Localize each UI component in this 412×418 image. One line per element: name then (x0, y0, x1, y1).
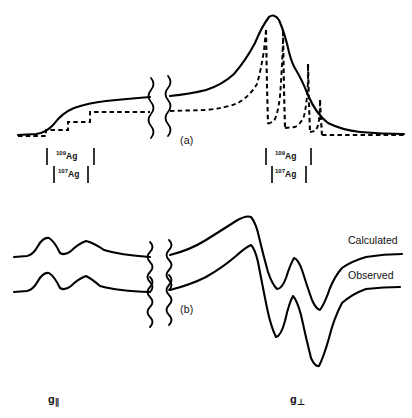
isotope-mass-right-107: 107 (275, 168, 285, 174)
panel-a-plot (0, 0, 412, 418)
isotope-symbol-right-107: Ag (285, 169, 296, 179)
g-perp-subscript: ⊥ (297, 397, 305, 407)
isotope-mass-left-107: 107 (58, 168, 68, 174)
isotope-symbol-right-109: Ag (285, 151, 296, 161)
epr-spectrum-figure: (a) (b) 109Ag 107Ag 109Ag 107Ag Calculat… (0, 0, 412, 418)
isotope-label-right-107ag: 107Ag (275, 168, 296, 179)
absorption-envelope-curve (18, 16, 404, 135)
g-parallel-symbol: g (48, 393, 55, 405)
panel-a-caption: (a) (180, 134, 193, 146)
g-perp-symbol: g (290, 393, 297, 405)
g-parallel-subscript: ∥ (55, 397, 60, 407)
axis-break-panel-a (149, 76, 171, 138)
isotope-label-left-109ag: 109Ag (56, 150, 77, 161)
isotope-label-right-109ag: 109Ag (275, 150, 296, 161)
g-perpendicular-axis-label: g⊥ (290, 393, 305, 407)
isotope-symbol-left-109: Ag (66, 151, 77, 161)
derivative-observed-curve (14, 245, 400, 366)
isotope-mass-left-109: 109 (56, 150, 66, 156)
panel-b-caption: (b) (180, 303, 193, 315)
observed-trace-label: Observed (348, 269, 394, 281)
hyperfine-stick-dashed-curve (18, 30, 404, 136)
isotope-mass-right-109: 109 (275, 150, 285, 156)
g-parallel-axis-label: g∥ (48, 393, 59, 407)
isotope-label-left-107ag: 107Ag (58, 168, 79, 179)
axis-break-panel-b (148, 240, 172, 327)
derivative-calculated-curve (14, 217, 402, 311)
isotope-symbol-left-107: Ag (68, 169, 79, 179)
calculated-trace-label: Calculated (348, 234, 398, 246)
